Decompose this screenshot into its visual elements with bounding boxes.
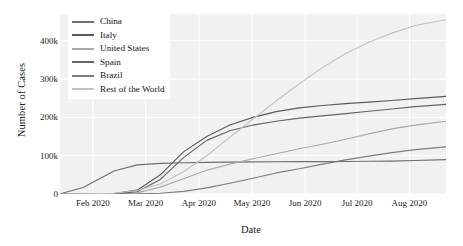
series-line bbox=[60, 121, 446, 194]
legend-item[interactable]: Rest of the World bbox=[72, 83, 165, 97]
legend-color-swatch bbox=[72, 88, 94, 90]
y-tick-label: 200k bbox=[26, 112, 58, 122]
x-tick-label: Feb 2020 bbox=[76, 198, 110, 208]
x-axis-tick-labels: Feb 2020Mar 2020Apr 2020May 2020Jun 2020… bbox=[0, 198, 463, 214]
line-chart: Number of Cases 0100k200k300k400k Feb 20… bbox=[0, 0, 463, 246]
legend-item-label: Italy bbox=[100, 29, 117, 43]
series-line bbox=[60, 96, 446, 194]
x-tick-label: Aug 2020 bbox=[391, 198, 427, 208]
legend-color-swatch bbox=[72, 21, 94, 23]
legend-item[interactable]: Spain bbox=[72, 56, 165, 70]
y-tick-label: 300k bbox=[26, 74, 58, 84]
legend-item[interactable]: Italy bbox=[72, 29, 165, 43]
series-line bbox=[60, 160, 446, 194]
legend-item-label: Brazil bbox=[100, 69, 122, 83]
x-tick-label: Jul 2020 bbox=[342, 198, 373, 208]
legend-item[interactable]: Brazil bbox=[72, 69, 165, 83]
legend-item[interactable]: China bbox=[72, 15, 165, 29]
x-axis-title: Date bbox=[56, 224, 446, 235]
legend-item-label: Rest of the World bbox=[100, 83, 165, 97]
y-tick-label: 400k bbox=[26, 36, 58, 46]
x-tick-label: Apr 2020 bbox=[182, 198, 216, 208]
legend-color-swatch bbox=[72, 48, 94, 50]
chart-legend: ChinaItalyUnited StatesSpainBrazilRest o… bbox=[68, 12, 170, 99]
y-tick-label: 100k bbox=[26, 151, 58, 161]
legend-color-swatch bbox=[72, 61, 94, 63]
legend-item-label: Spain bbox=[100, 56, 121, 70]
legend-color-swatch bbox=[72, 34, 94, 36]
x-tick-label: Jun 2020 bbox=[289, 198, 322, 208]
legend-item-label: China bbox=[100, 15, 122, 29]
x-tick-label: May 2020 bbox=[233, 198, 270, 208]
legend-item-label: United States bbox=[100, 42, 149, 56]
legend-color-swatch bbox=[72, 75, 94, 77]
x-tick-label: Mar 2020 bbox=[128, 198, 163, 208]
legend-item[interactable]: United States bbox=[72, 42, 165, 56]
